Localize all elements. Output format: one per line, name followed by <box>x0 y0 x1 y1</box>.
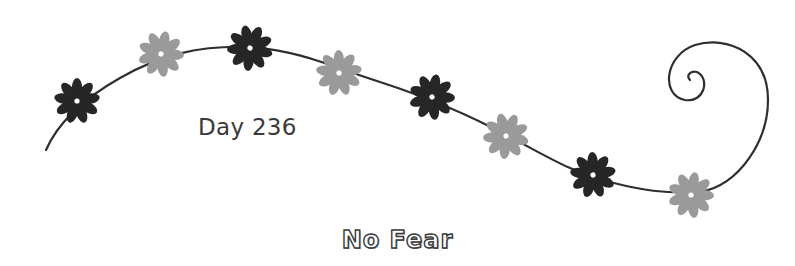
daisy-flower-icon <box>399 64 465 130</box>
daisy-flower-icon <box>53 78 100 124</box>
day-banner: Day 236 No Fear <box>0 0 795 266</box>
daisy-flower-icon <box>667 171 714 219</box>
daisy-flower-icon <box>475 105 537 167</box>
daisy-flower-icon <box>219 17 282 79</box>
page-title: No Fear <box>0 226 795 254</box>
daisy-flower-icon <box>306 40 372 106</box>
day-label: Day 236 <box>198 114 297 140</box>
daisy-flower-icon <box>565 147 620 203</box>
daisy-flower-icon <box>133 26 189 82</box>
